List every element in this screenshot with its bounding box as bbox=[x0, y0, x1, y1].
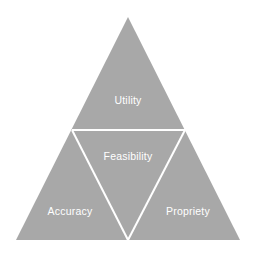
triangle-diagram: Utility Feasibility Accuracy Propriety bbox=[0, 0, 257, 259]
outer-triangle-shape bbox=[16, 17, 240, 240]
triangle-graphic bbox=[0, 0, 257, 259]
